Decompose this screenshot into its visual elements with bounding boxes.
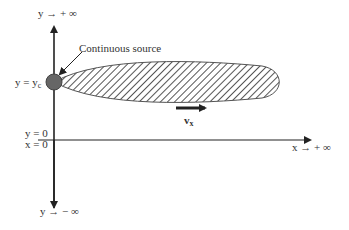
x-pos-inf-label: x → + ∞	[292, 141, 331, 153]
y-source-text: y = y	[15, 76, 38, 88]
plume-ellipse	[54, 62, 279, 103]
y-source-label: y = yc	[15, 76, 42, 90]
y-neg-inf-label: y → − ∞	[40, 205, 79, 217]
velocity-subscript: x	[190, 119, 194, 128]
y-pos-inf-label: y → + ∞	[38, 7, 77, 19]
source-point	[46, 74, 62, 90]
source-callout-label: Continuous source	[79, 42, 161, 54]
source-callout-arrow	[60, 52, 82, 74]
x-zero-label: x = 0	[25, 138, 48, 150]
velocity-label: vx	[184, 114, 194, 128]
y-source-subscript: c	[38, 81, 42, 90]
plume-diagram: y → + ∞ Continuous source y = yc vx y = …	[0, 0, 349, 230]
